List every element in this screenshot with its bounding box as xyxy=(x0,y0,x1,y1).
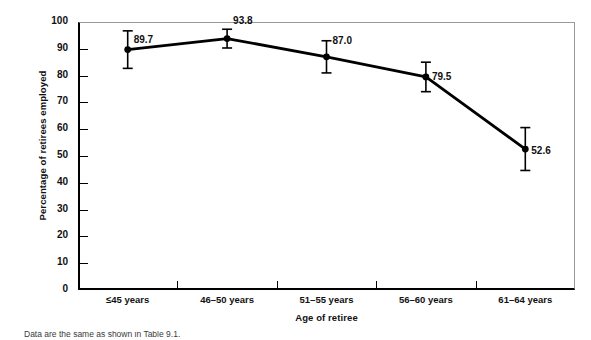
figure-container: Percentage of retirees employed 01020304… xyxy=(0,0,591,340)
caption-strip: Data are the same as shown in Table 9.1. xyxy=(0,331,591,340)
data-value-label: 87.0 xyxy=(333,35,352,46)
data-value-label: 79.5 xyxy=(432,71,451,82)
y-tick-mark xyxy=(79,102,88,103)
x-category-label: ≤45 years xyxy=(78,294,177,305)
y-tick-label: 0 xyxy=(34,283,68,294)
plot-area xyxy=(78,22,575,290)
y-tick-label: 80 xyxy=(34,69,68,80)
y-tick-mark xyxy=(79,156,88,157)
caption-fragment: Data are the same as shown in Table 9.1. xyxy=(24,331,180,339)
y-tick-mark xyxy=(79,263,88,264)
x-category-label: 46–50 years xyxy=(177,294,276,305)
y-tick-mark xyxy=(79,183,88,184)
y-tick-label: 50 xyxy=(34,149,68,160)
data-value-label: 93.8 xyxy=(233,15,252,26)
y-tick-mark xyxy=(79,49,88,50)
x-tick-mark xyxy=(177,281,178,289)
x-category-label: 61–64 years xyxy=(476,294,575,305)
y-tick-mark xyxy=(79,210,88,211)
y-tick-label: 30 xyxy=(34,203,68,214)
data-value-label: 89.7 xyxy=(134,34,153,45)
y-tick-label: 90 xyxy=(34,42,68,53)
x-category-label: 56–60 years xyxy=(376,294,475,305)
y-tick-label: 100 xyxy=(34,15,68,26)
y-tick-label: 20 xyxy=(34,229,68,240)
y-tick-label: 10 xyxy=(34,256,68,267)
x-tick-mark xyxy=(376,281,377,289)
y-tick-label: 70 xyxy=(34,95,68,106)
y-tick-mark xyxy=(79,236,88,237)
x-category-label: 51–55 years xyxy=(277,294,376,305)
y-tick-mark xyxy=(79,76,88,77)
x-axis-title: Age of retiree xyxy=(78,312,575,323)
data-value-label: 52.6 xyxy=(531,145,550,156)
y-tick-label: 40 xyxy=(34,176,68,187)
y-tick-label: 60 xyxy=(34,122,68,133)
y-tick-mark xyxy=(79,129,88,130)
x-tick-mark xyxy=(476,281,477,289)
x-tick-mark xyxy=(277,281,278,289)
